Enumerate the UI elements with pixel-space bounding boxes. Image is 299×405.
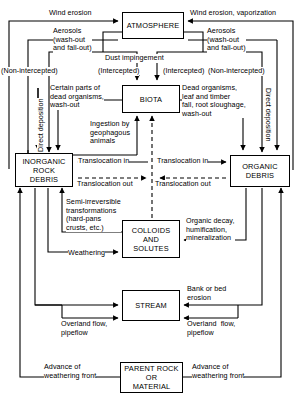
label-advance-weathering-front-right: Advance of weathering front [192, 363, 244, 380]
label-overland-flow-left: Overland flow, pipeflow [61, 320, 107, 337]
line-aerosols-right-a [184, 32, 203, 52]
label-dead-organisms: Dead organisms, leaf and timber fall, ro… [182, 84, 246, 118]
label-translocation-in-left: Translocation in [78, 157, 129, 166]
label-wind-erosion-right: Wind erosion, vaporization [190, 9, 276, 18]
label-overland-flow-right: Overland flow, pipeflow [187, 320, 235, 337]
node-atmosphere-label: ATMOSPHERE [127, 21, 180, 30]
node-organic-label: ORGANIC DEBRIS [242, 162, 278, 180]
label-non-intercepted-right: (Non-intercepted) [208, 67, 265, 76]
label-aerosols-right: Aerosols (wash-out and fall-out) [207, 27, 246, 53]
label-ingestion-geophagous-animals: Ingestion by geophagous animals [90, 120, 130, 146]
node-parent-rock-label: PARENT ROCK OR MATERIAL [124, 364, 178, 391]
node-organic-debris[interactable]: ORGANIC DEBRIS [230, 155, 290, 187]
label-aerosols-left: Aerosols (wash-out and fall-out) [53, 27, 92, 53]
label-dust-impingement: Dust impingement [105, 54, 164, 63]
node-stream-label: STREAM [135, 301, 167, 310]
node-inorganic-label: INORGANIC ROCK DEBRIS [22, 157, 65, 184]
label-weathering: Weathering [68, 249, 105, 258]
label-direct-deposition-left: Direct deposition [37, 98, 46, 152]
line-aerosols-left-a [103, 32, 122, 52]
label-advance-weathering-front-left: Advance of weathering front [44, 363, 96, 380]
node-parent-rock-or-material[interactable]: PARENT ROCK OR MATERIAL [120, 362, 183, 393]
node-colloids-label: COLLOIDS AND SOLUTES [132, 226, 171, 253]
label-translocation-out-right: Translocation out [155, 180, 211, 189]
label-bank-or-bed-erosion: Bank or bed erosion [187, 285, 226, 302]
node-biota-label: BIOTA [140, 95, 162, 104]
node-colloids-and-solutes[interactable]: COLLOIDS AND SOLUTES [122, 220, 180, 258]
soil-system-diagram: ATMOSPHERE BIOTA INORGANIC ROCK DEBRIS O… [0, 0, 299, 405]
label-translocation-in-right: Translocation in [157, 157, 208, 166]
label-semi-irreversible-transformations: Semi-irreversible transformations (hard-… [66, 198, 121, 232]
node-stream[interactable]: STREAM [122, 290, 180, 321]
label-organic-decay: Organic decay, humification, mineralizat… [186, 217, 235, 243]
label-intercepted-right: (Intercepted) [163, 67, 204, 76]
label-translocation-out-left: Translocation out [77, 180, 133, 189]
label-wind-erosion-left: Wind erosion [49, 9, 92, 18]
label-certain-parts-dead-organisms: Certain parts of dead organisms, wash-ou… [50, 84, 104, 110]
label-non-intercepted-left: (Non-intercepted) [1, 67, 58, 76]
label-direct-deposition-right: Direct deposition [263, 88, 272, 142]
node-atmosphere[interactable]: ATMOSPHERE [122, 12, 184, 39]
node-inorganic-rock-debris[interactable]: INORGANIC ROCK DEBRIS [15, 153, 73, 187]
node-biota[interactable]: BIOTA [122, 85, 180, 113]
label-intercepted-left: (Intercepted) [98, 67, 139, 76]
